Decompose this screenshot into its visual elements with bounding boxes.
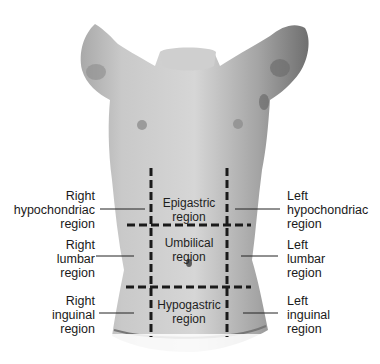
label-left-hypochondriac: Left hypochondriac region (287, 189, 368, 231)
label-line: lumbar (57, 252, 95, 266)
label-epigastric: Epigastric region (151, 196, 227, 224)
label-left-lumbar: Left lumbar region (287, 238, 325, 280)
label-line: region (52, 322, 95, 336)
armpit-shadow-left (270, 59, 290, 77)
label-line: hypochondriac (287, 203, 368, 217)
neck-shape (160, 48, 216, 71)
armpit-shadow-right (86, 64, 106, 80)
label-right-lumbar: Right lumbar region (57, 238, 95, 280)
label-line: Right (14, 189, 95, 203)
label-line: region (149, 312, 229, 326)
label-line: Right (52, 294, 95, 308)
label-right-hypochondriac: Right hypochondriac region (14, 189, 95, 231)
label-line: region (287, 322, 330, 336)
nipple-left (233, 119, 243, 129)
label-line: Epigastric (151, 196, 227, 210)
label-line: Left (287, 238, 325, 252)
label-line: region (14, 217, 95, 231)
label-line: lumbar (287, 252, 325, 266)
label-left-inguinal: Left inguinal region (287, 294, 330, 336)
label-line: region (57, 266, 95, 280)
label-line: Right (57, 238, 95, 252)
armpit-shadow-left-lower (259, 94, 269, 110)
label-right-inguinal: Right inguinal region (52, 294, 95, 336)
label-line: region (151, 250, 227, 264)
label-line: region (287, 266, 325, 280)
bottom-fade (100, 334, 280, 364)
label-line: region (287, 217, 368, 231)
label-umbilical: Umbilical region (151, 236, 227, 264)
label-line: hypochondriac (14, 203, 95, 217)
label-line: Hypogastric (149, 298, 229, 312)
label-line: inguinal (52, 308, 95, 322)
label-hypogastric: Hypogastric region (149, 298, 229, 326)
nipple-right (137, 120, 147, 130)
abdominal-regions-figure: Right hypochondriac region Right lumbar … (0, 0, 380, 364)
label-line: region (151, 210, 227, 224)
label-line: Left (287, 189, 368, 203)
label-line: inguinal (287, 308, 330, 322)
label-line: Umbilical (151, 236, 227, 250)
label-line: Left (287, 294, 330, 308)
